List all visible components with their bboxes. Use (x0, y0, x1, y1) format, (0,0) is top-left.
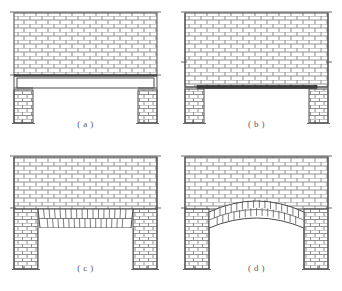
figure-caption-c: ( c ) (0, 263, 171, 273)
left-pier-d (185, 209, 209, 269)
figure-panel-a: ( a ) (0, 0, 171, 146)
right-pier-c (133, 209, 157, 269)
left-pier-c (14, 209, 38, 269)
left-pier-b (185, 89, 204, 123)
brick-wall-a (14, 13, 157, 75)
figure-panel-d: ( d ) (171, 146, 342, 291)
figure-caption-d: ( d ) (171, 263, 342, 273)
figure-panel-c: ( c ) (0, 146, 171, 291)
figure-grid: ( a ) (0, 0, 342, 291)
brick-wall-c (14, 157, 157, 209)
concrete-lintel-a (14, 76, 157, 89)
figure-caption-a: ( a ) (0, 119, 171, 129)
right-pier-d (304, 209, 328, 269)
right-pier-b (309, 89, 328, 123)
flat-jack-arch-c (38, 209, 133, 228)
brick-wall-b (185, 13, 328, 87)
figure-panel-b: ( b ) (171, 0, 342, 146)
figure-caption-b: ( b ) (171, 119, 342, 129)
